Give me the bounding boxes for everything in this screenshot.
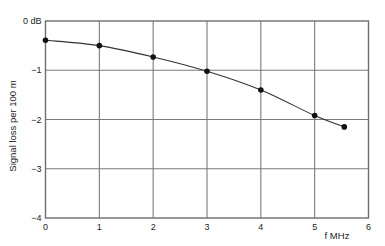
- x-tick-label: 5: [312, 222, 317, 232]
- y-tick-label: 0 dB: [23, 16, 42, 26]
- y-tick-label: −3: [31, 164, 41, 174]
- data-point-marker: [43, 37, 49, 43]
- y-tick-label: −2: [31, 115, 41, 125]
- x-tick-label: 1: [97, 222, 102, 232]
- chart-grid: [46, 21, 369, 218]
- data-point-marker: [312, 113, 318, 119]
- data-point-marker: [97, 43, 103, 49]
- signal-loss-chart: 0 dB−1−2−3−4 0123456 Signal loss per 100…: [0, 0, 385, 246]
- x-axis-label: f MHz: [325, 230, 350, 241]
- x-tick-label: 2: [151, 222, 156, 232]
- data-point-marker: [258, 87, 264, 93]
- y-axis-ticks: 0 dB−1−2−3−4: [23, 16, 42, 223]
- x-tick-label: 0: [43, 222, 48, 232]
- x-axis-ticks: 0123456: [43, 222, 371, 232]
- x-tick-label: 3: [204, 222, 209, 232]
- y-tick-label: −4: [31, 213, 41, 223]
- data-point-marker: [150, 54, 156, 60]
- y-axis-label: Signal loss per 100 m: [7, 80, 18, 171]
- x-tick-label: 4: [258, 222, 263, 232]
- data-point-marker: [341, 124, 347, 130]
- data-series: [43, 37, 347, 129]
- x-tick-label: 6: [366, 222, 371, 232]
- series-line: [46, 40, 345, 127]
- data-point-marker: [204, 68, 210, 74]
- y-tick-label: −1: [31, 65, 41, 75]
